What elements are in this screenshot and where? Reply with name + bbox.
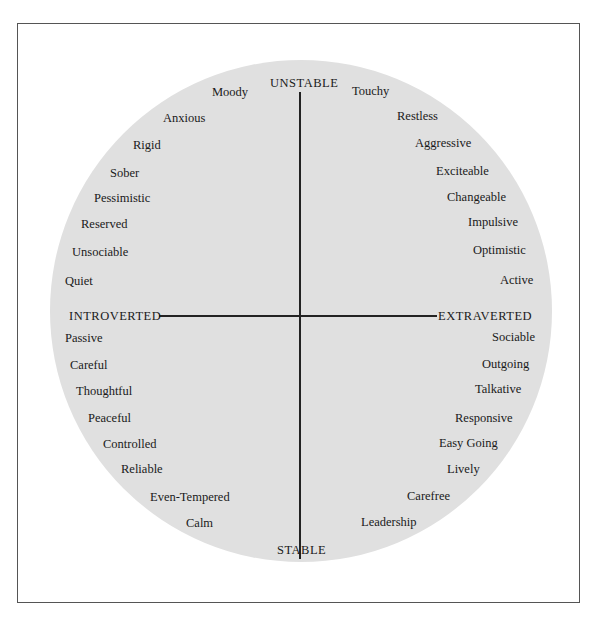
trait-sociable: Sociable (492, 330, 535, 344)
trait-touchy: Touchy (352, 84, 389, 98)
axis-label-unstable: UNSTABLE (270, 76, 338, 90)
trait-impulsive: Impulsive (468, 215, 518, 229)
trait-talkative: Talkative (475, 382, 521, 396)
trait-responsive: Responsive (455, 411, 513, 425)
trait-sober: Sober (110, 166, 139, 180)
trait-anxious: Anxious (163, 111, 205, 125)
trait-reliable: Reliable (121, 462, 163, 476)
trait-quiet: Quiet (65, 274, 93, 288)
trait-passive: Passive (65, 331, 103, 345)
trait-leadership: Leadership (361, 515, 417, 529)
trait-thoughtful: Thoughtful (76, 384, 132, 398)
stability-axis-line (299, 92, 301, 559)
axis-label-stable: STABLE (277, 543, 326, 557)
trait-unsociable: Unsociable (72, 245, 128, 259)
trait-reserved: Reserved (81, 217, 128, 231)
trait-rigid: Rigid (133, 138, 161, 152)
trait-changeable: Changeable (447, 190, 506, 204)
axis-label-introverted: INTROVERTED (69, 309, 161, 323)
trait-outgoing: Outgoing (482, 357, 529, 371)
trait-calm: Calm (186, 516, 213, 530)
axis-label-extraverted: EXTRAVERTED (438, 309, 532, 323)
trait-peaceful: Peaceful (88, 411, 131, 425)
extraversion-axis-line (159, 315, 437, 317)
trait-even-tempered: Even-Tempered (150, 490, 230, 504)
trait-moody: Moody (212, 85, 248, 99)
trait-easy-going: Easy Going (439, 436, 498, 450)
trait-optimistic: Optimistic (473, 243, 526, 257)
trait-aggressive: Aggressive (415, 136, 471, 150)
trait-active: Active (500, 273, 533, 287)
trait-pessimistic: Pessimistic (94, 191, 150, 205)
trait-controlled: Controlled (103, 437, 156, 451)
trait-careful: Careful (70, 358, 107, 372)
trait-lively: Lively (447, 462, 480, 476)
trait-carefree: Carefree (407, 489, 450, 503)
trait-exciteable: Exciteable (436, 164, 489, 178)
trait-restless: Restless (397, 109, 438, 123)
